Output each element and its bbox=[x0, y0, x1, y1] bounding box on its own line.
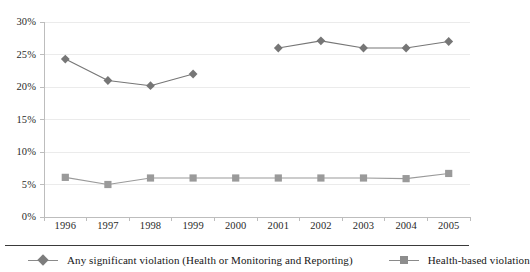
data-point bbox=[402, 44, 411, 53]
plot-svg bbox=[0, 0, 474, 240]
data-point bbox=[317, 174, 324, 181]
y-axis-tick-label: 10% bbox=[2, 147, 36, 158]
x-axis-tick-label: 1999 bbox=[171, 221, 215, 232]
data-point bbox=[104, 181, 111, 188]
x-axis-tick-label: 2000 bbox=[214, 221, 258, 232]
chart-legend: Any significant violation (Health or Mon… bbox=[0, 250, 474, 270]
data-point bbox=[403, 175, 410, 182]
y-axis-tick-label: 5% bbox=[2, 180, 36, 191]
legend-divider bbox=[5, 245, 469, 246]
data-point bbox=[104, 76, 113, 85]
data-point bbox=[445, 170, 452, 177]
x-axis-tick-label: 2004 bbox=[384, 221, 428, 232]
data-point bbox=[232, 174, 239, 181]
x-axis-tick-label: 1997 bbox=[86, 221, 130, 232]
plot-area: 30%25%20%15%10%5%0% 19961997199819992000… bbox=[0, 0, 474, 240]
data-point bbox=[190, 174, 197, 181]
y-axis-tick-label: 20% bbox=[2, 82, 36, 93]
data-point bbox=[146, 81, 155, 90]
data-point bbox=[61, 55, 70, 64]
data-point bbox=[359, 44, 368, 53]
data-point bbox=[317, 36, 326, 45]
y-axis-tick-label: 25% bbox=[2, 50, 36, 61]
data-point bbox=[147, 174, 154, 181]
diamond-marker-icon bbox=[28, 254, 58, 266]
square-marker-icon bbox=[389, 254, 419, 266]
x-axis-tick-label: 2002 bbox=[299, 221, 343, 232]
x-axis-tick-label: 1996 bbox=[43, 221, 87, 232]
legend-item-any-significant-violation: Any significant violation (Health or Mon… bbox=[28, 254, 353, 266]
y-axis-tick-label: 15% bbox=[2, 115, 36, 126]
x-axis-tick-label: 2001 bbox=[256, 221, 300, 232]
y-axis-tick-marks bbox=[40, 22, 44, 217]
x-axis-tick-label: 2005 bbox=[427, 221, 471, 232]
data-series-layer bbox=[61, 36, 453, 188]
x-axis-tick-label: 1998 bbox=[129, 221, 173, 232]
data-point bbox=[444, 37, 453, 46]
legend-label: Health-based violation bbox=[428, 254, 530, 266]
legend-label: Any significant violation (Health or Mon… bbox=[67, 254, 353, 266]
data-point bbox=[275, 174, 282, 181]
y-axis-tick-label: 0% bbox=[2, 212, 36, 223]
data-point bbox=[189, 70, 198, 79]
y-axis-tick-label: 30% bbox=[2, 17, 36, 28]
data-point bbox=[62, 174, 69, 181]
data-point bbox=[360, 174, 367, 181]
x-axis-tick-label: 2003 bbox=[342, 221, 386, 232]
data-point bbox=[274, 44, 283, 53]
legend-item-health-based-violation: Health-based violation bbox=[389, 254, 530, 266]
